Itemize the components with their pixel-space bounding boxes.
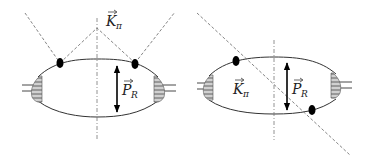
hatched-blob-left xyxy=(31,76,42,102)
vertex xyxy=(57,58,64,68)
vertex xyxy=(309,105,316,115)
svg-text:R: R xyxy=(130,90,138,100)
hatched-blob-right xyxy=(331,73,341,98)
pion-line xyxy=(197,13,350,155)
pion-line xyxy=(135,12,175,63)
right-diagram: K π P R xyxy=(197,13,352,155)
k-pi-label: K π xyxy=(232,78,250,99)
svg-text:π: π xyxy=(115,21,123,31)
feynman-diagrams: K π P R K π xyxy=(0,0,371,167)
p-r-label: P R xyxy=(291,78,308,99)
loop-ellipse xyxy=(38,59,158,117)
vertex xyxy=(233,56,240,66)
p-r-label: P R xyxy=(121,79,138,100)
pion-line xyxy=(60,28,135,63)
left-diagram: K π P R xyxy=(22,10,176,140)
hatched-blob-right xyxy=(154,76,165,102)
vertex xyxy=(132,59,139,69)
hatched-blob-left xyxy=(203,75,213,100)
svg-text:R: R xyxy=(300,89,308,99)
pion-line xyxy=(25,13,60,63)
svg-text:π: π xyxy=(242,89,250,99)
loop-ellipse xyxy=(209,57,336,114)
k-pi-label: K π xyxy=(105,10,123,31)
